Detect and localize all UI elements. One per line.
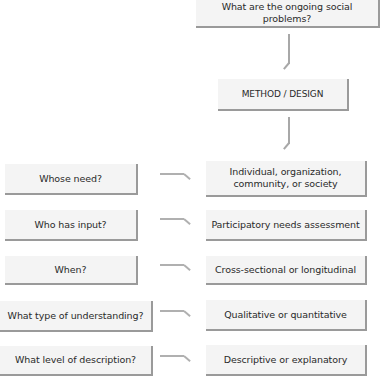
arrow-row-2-head-icon: [183, 218, 190, 225]
arrow-top-to-method-head-icon: [283, 62, 290, 69]
question-label: Whose need?: [39, 173, 102, 185]
arrow-row-4-head-icon: [183, 310, 190, 317]
question-label: When?: [55, 264, 87, 276]
answer-box-when: Cross-sectional or longitudinal: [206, 256, 367, 285]
arrow-method-to-rows-icon: [288, 117, 290, 144]
arrow-row-3-icon: [160, 264, 184, 266]
answer-box-type-of-understanding: Qualitative or quantitative: [206, 300, 367, 331]
answer-label: Descriptive or explanatory: [224, 354, 348, 366]
arrow-row-5-head-icon: [183, 355, 190, 362]
arrow-method-to-rows-head-icon: [283, 142, 290, 149]
answer-box-who-has-input: Participatory needs assessment: [206, 210, 367, 241]
question-box-whose-need: Whose need?: [5, 164, 138, 195]
answer-box-level-of-description: Descriptive or explanatory: [206, 345, 367, 376]
question-label: What type of understanding?: [8, 310, 144, 322]
question-box-when: When?: [5, 256, 138, 285]
answer-box-whose-need: Individual, organization, community, or …: [206, 161, 367, 197]
question-label: What level of description?: [15, 354, 136, 366]
arrow-row-1-icon: [160, 173, 184, 175]
answer-label: Qualitative or quantitative: [224, 309, 347, 321]
answer-label: Individual, organization, community, or …: [226, 166, 346, 190]
question-box-type-of-understanding: What type of understanding?: [0, 301, 153, 332]
method-design-label: METHOD / DESIGN: [242, 88, 324, 100]
question-label: Who has input?: [34, 219, 106, 231]
answer-label: Cross-sectional or longitudinal: [215, 264, 356, 276]
top-box-social-problems: What are the ongoing social problems?: [196, 0, 380, 28]
question-box-level-of-description: What level of description?: [0, 346, 153, 376]
arrow-row-2-icon: [160, 218, 184, 220]
arrow-row-1-head-icon: [183, 173, 190, 180]
method-design-box: METHOD / DESIGN: [218, 79, 349, 111]
arrow-row-5-icon: [160, 355, 184, 357]
arrow-row-4-icon: [160, 310, 184, 312]
top-box-label: What are the ongoing social problems?: [196, 1, 378, 25]
arrow-top-to-method-icon: [288, 34, 290, 64]
arrow-row-3-head-icon: [183, 264, 190, 271]
answer-label: Participatory needs assessment: [211, 219, 359, 231]
question-box-who-has-input: Who has input?: [5, 210, 138, 241]
